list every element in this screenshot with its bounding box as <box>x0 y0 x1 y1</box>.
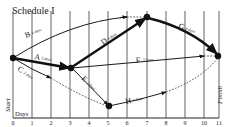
schedule-network-diagram: Schedule I Days 0 1 2 3 4 5 6 7 8 9 10 1… <box>0 0 241 127</box>
node-day-7 <box>144 14 150 20</box>
tick-10: 10 <box>201 120 207 126</box>
tick-0: 0 <box>12 120 15 126</box>
activity-c-slack <box>51 78 107 106</box>
activity-c-label: C 2 days <box>16 64 36 82</box>
activity-h-label: H 3 days <box>125 93 144 105</box>
svg-text:3 days: 3 days <box>132 95 144 102</box>
tick-5: 5 <box>107 120 110 126</box>
diagram-title: Schedule I <box>12 5 55 16</box>
activity-h-slack <box>166 58 218 92</box>
tick-7: 7 <box>146 120 149 126</box>
tick-6: 6 <box>126 120 129 126</box>
svg-text:2 days: 2 days <box>23 70 35 80</box>
node-day-5 <box>106 103 112 109</box>
tick-11: 11 <box>216 120 222 126</box>
tick-2: 2 <box>50 120 53 126</box>
svg-text:7 days: 7 days <box>143 57 154 63</box>
activity-b-label: B 4 days <box>23 25 43 40</box>
days-axis-label: Days <box>15 110 29 117</box>
tick-1: 1 <box>31 120 34 126</box>
finish-label: Finish <box>216 86 224 105</box>
tick-9: 9 <box>184 120 187 126</box>
tick-8: 8 <box>165 120 168 126</box>
svg-text:3 days: 3 days <box>41 55 52 62</box>
node-finish <box>215 53 221 59</box>
tick-4: 4 <box>88 120 91 126</box>
svg-text:F: F <box>136 56 142 65</box>
node-day-3 <box>68 65 74 71</box>
activity-f-label: F 7 days <box>136 55 154 65</box>
start-label: Start <box>4 97 12 112</box>
svg-text:A: A <box>34 52 41 62</box>
svg-text:2 days: 2 days <box>86 80 97 91</box>
node-start <box>10 55 16 61</box>
tick-3: 3 <box>69 120 72 126</box>
day-tick-labels: 0 1 2 3 4 5 6 7 8 9 10 11 <box>12 120 222 126</box>
